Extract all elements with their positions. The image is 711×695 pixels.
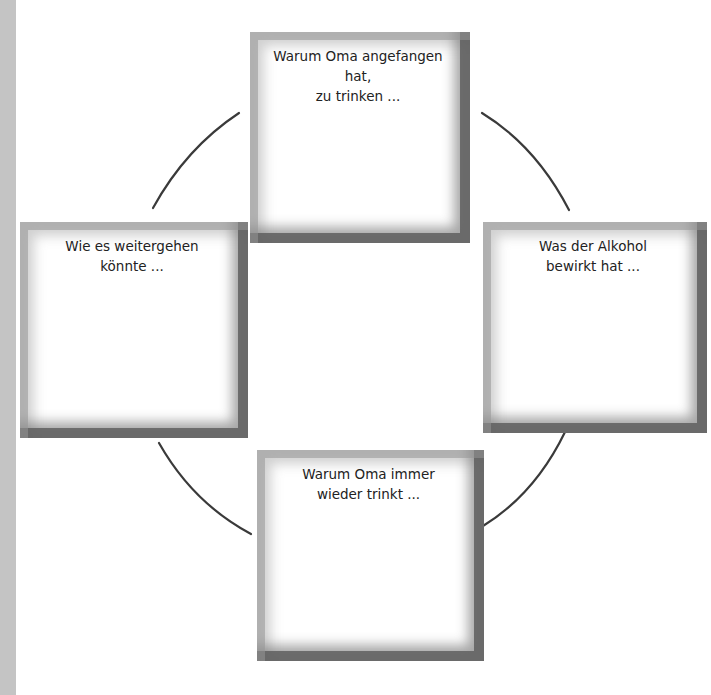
box-how-it-could-continue[interactable]: Wie es weitergehen könnte ... — [20, 222, 248, 438]
arc-right-to-bottom — [483, 432, 565, 526]
box-effects-of-alcohol[interactable]: Was der Alkohol bewirkt hat ... — [483, 222, 707, 433]
box-label: Was der Alkohol bewirkt hat ... — [501, 236, 685, 276]
arc-left-to-top — [153, 113, 239, 208]
arc-bottom-to-left — [159, 443, 251, 534]
box-why-started-drinking[interactable]: Warum Oma angefangen hat, zu trinken ... — [250, 32, 470, 243]
box-label: Warum Oma immer wieder trinkt ... — [275, 464, 462, 504]
box-label: Wie es weitergehen könnte ... — [38, 236, 226, 276]
box-label: Warum Oma angefangen hat, zu trinken ... — [268, 46, 448, 106]
box-why-keeps-drinking[interactable]: Warum Oma immer wieder trinkt ... — [257, 450, 484, 661]
arc-top-to-right — [482, 113, 569, 210]
